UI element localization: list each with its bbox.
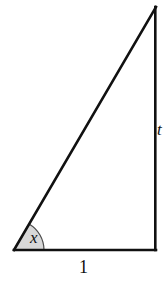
side-label-one: 1 [79, 258, 88, 276]
side-label-t: t [157, 121, 162, 138]
angle-label-x: x [30, 229, 38, 246]
triangle-figure: x t 1 [0, 0, 168, 292]
triangle-hypotenuse-side [14, 7, 156, 250]
triangle-diagram-svg [0, 0, 168, 292]
angle-arc-sector [14, 224, 44, 250]
